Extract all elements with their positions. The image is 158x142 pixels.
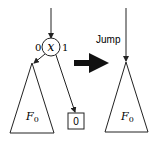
right-arrow-icon	[74, 53, 109, 73]
one-edge	[56, 55, 75, 112]
left-diagram: x 0 1 F0 0	[10, 8, 84, 133]
right-diagram: Jump F0	[96, 8, 148, 132]
node-label: x	[48, 40, 55, 54]
one-edge-label: 1	[62, 42, 68, 53]
bdd-reduction-diagram: x 0 1 F0 0 Jump F0	[0, 0, 158, 142]
zero-edge	[34, 54, 45, 63]
terminal-label: 0	[73, 116, 79, 127]
zero-edge-label: 0	[35, 42, 41, 53]
jump-label: Jump	[96, 34, 121, 45]
